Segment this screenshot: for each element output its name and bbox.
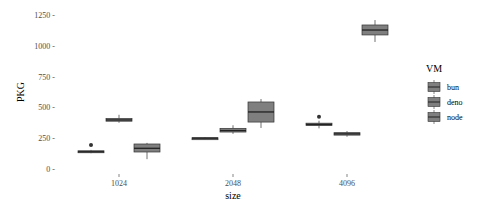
outlier-point bbox=[317, 115, 321, 119]
y-tick-label: 250 - bbox=[38, 134, 55, 143]
x-axis: 102420484096 bbox=[111, 174, 355, 188]
x-tick-label: 4096 bbox=[339, 179, 355, 188]
plot-area bbox=[78, 20, 388, 159]
y-tick-label: 1000 - bbox=[34, 42, 55, 51]
box-bun-2048 bbox=[192, 137, 218, 139]
y-tick-label: 0 - bbox=[46, 165, 55, 174]
legend-label: deno bbox=[447, 98, 463, 107]
x-tick-label: 2048 bbox=[225, 179, 241, 188]
legend-item-bun: bun bbox=[428, 80, 459, 94]
box-node-2048 bbox=[248, 99, 274, 128]
legend-label: node bbox=[447, 113, 463, 122]
legend-item-node: node bbox=[428, 110, 463, 124]
outlier-point bbox=[89, 143, 93, 147]
y-axis: 0 -250 -500 -750 -1000 -1250 - bbox=[34, 11, 55, 174]
box-node-4096 bbox=[362, 20, 388, 42]
box-bun-4096 bbox=[306, 115, 332, 129]
legend: VM bundenonode bbox=[426, 63, 463, 124]
box-bun-1024 bbox=[78, 143, 104, 153]
x-tick-label: 1024 bbox=[111, 179, 127, 188]
box-plot-chart: 0 -250 -500 -750 -1000 -1250 - 102420484… bbox=[0, 0, 482, 211]
legend-label: bun bbox=[447, 83, 459, 92]
y-tick-label: 750 - bbox=[38, 73, 55, 82]
legend-title: VM bbox=[426, 63, 442, 74]
box-node-1024 bbox=[134, 143, 160, 159]
legend-item-deno: deno bbox=[428, 95, 463, 109]
y-tick-label: 500 - bbox=[38, 103, 55, 112]
y-axis-title: PKG bbox=[15, 82, 26, 102]
x-axis-title: size bbox=[225, 190, 241, 201]
y-tick-label: 1250 - bbox=[34, 11, 55, 20]
box-deno-1024 bbox=[106, 115, 132, 123]
box-deno-2048 bbox=[220, 125, 246, 134]
box-deno-4096 bbox=[334, 131, 360, 137]
